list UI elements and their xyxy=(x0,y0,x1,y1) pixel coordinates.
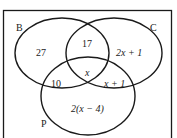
set-b-label: B xyxy=(16,22,23,33)
region-p-only: 2(x − 4) xyxy=(71,103,105,115)
set-c-label: C xyxy=(150,22,157,33)
region-b-c-only: 17 xyxy=(82,38,92,49)
region-b-p-only: 10 xyxy=(51,78,61,89)
venn-diagram: B C P 27 17 2x + 1 10 x x + 1 2(x − 4) xyxy=(0,0,177,138)
region-b-only: 27 xyxy=(36,47,46,58)
set-p-label: P xyxy=(41,118,47,129)
region-c-p-only: x + 1 xyxy=(103,78,125,89)
set-b-ellipse xyxy=(15,18,109,88)
region-b-c-p: x xyxy=(84,67,90,78)
region-c-only: 2x + 1 xyxy=(116,47,142,58)
